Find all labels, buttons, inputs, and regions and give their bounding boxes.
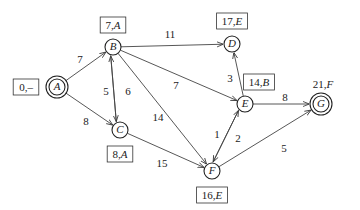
edge-weight: 2	[235, 132, 241, 144]
node-id-text: B	[110, 40, 117, 52]
edge-weight: 7	[77, 53, 83, 65]
edge-b-to-d	[121, 44, 223, 47]
edge-e-to-d	[234, 53, 243, 96]
edge-b-to-e	[120, 50, 236, 100]
edge-weight: 3	[227, 72, 233, 84]
distance-label-e: 14,B	[244, 74, 275, 90]
graph-svg: 7856117141538125 ABCDEFG 0,–7,A8,A17,E14…	[0, 0, 360, 210]
node-c: C	[112, 122, 128, 138]
node-id-text: D	[227, 37, 236, 49]
edge-weight: 5	[281, 142, 287, 154]
distance-label-text: 14,B	[249, 75, 270, 87]
edge-b-to-c	[111, 55, 117, 121]
distance-label-g: 21,F	[313, 77, 334, 89]
edge-a-to-b	[66, 52, 106, 80]
node-id-text: G	[317, 97, 325, 109]
distance-label-c: 8,A	[107, 146, 133, 162]
node-b: B	[105, 39, 121, 55]
graph-diagram: 7856117141538125 ABCDEFG 0,–7,A8,A17,E14…	[0, 0, 360, 210]
edge-weight: 8	[282, 91, 288, 103]
distance-label-a: 0,–	[13, 79, 39, 95]
distance-label-f: 16,E	[197, 187, 228, 203]
edge-weight: 14	[153, 111, 165, 123]
edge-weight: 11	[165, 28, 176, 40]
distance-label-text: 17,E	[222, 14, 243, 26]
distance-label-text: 0,–	[19, 80, 33, 92]
node-id-text: E	[241, 97, 249, 109]
node-f: F	[204, 163, 220, 179]
node-id-text: F	[208, 164, 216, 176]
edge-weight: 1	[214, 128, 220, 140]
edges-layer: 7856117141538125	[66, 28, 311, 169]
distance-label-b: 7,A	[100, 17, 126, 33]
edge-weight: 15	[157, 157, 169, 169]
node-g: G	[310, 93, 332, 115]
distance-label-text: 7,A	[106, 18, 121, 30]
edge-weight: 5	[103, 85, 109, 97]
edge-f-to-g	[219, 110, 311, 167]
node-a: A	[46, 76, 68, 98]
node-d: D	[224, 36, 240, 52]
edge-weight: 7	[173, 79, 179, 91]
node-id-text: A	[53, 80, 61, 92]
distance-label-text: 16,E	[202, 188, 223, 200]
node-id-text: C	[116, 123, 124, 135]
edge-weight: 8	[83, 115, 89, 127]
distance-label-text: 21,F	[313, 77, 334, 89]
node-e: E	[237, 96, 253, 112]
edge-weight: 6	[125, 85, 131, 97]
edge-a-to-c	[66, 93, 112, 125]
nodes-layer: ABCDEFG	[46, 36, 332, 179]
labels-layer: 0,–7,A8,A17,E14,B16,E21,F	[13, 13, 333, 203]
distance-label-text: 8,A	[113, 147, 128, 159]
distance-label-d: 17,E	[217, 13, 248, 29]
